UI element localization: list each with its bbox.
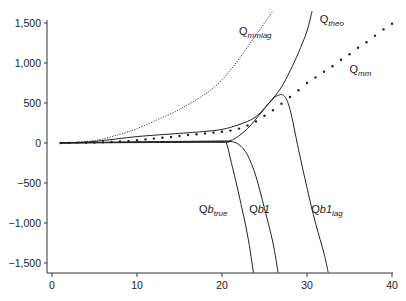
y-tick-label: −500 (17, 177, 41, 189)
line-chart: 1,5001,0005000−500−1,000−1,500 010203040… (0, 0, 406, 301)
data-point (238, 127, 240, 129)
data-point (212, 131, 214, 133)
y-tick-label: 1,500 (15, 17, 41, 29)
data-point (263, 115, 265, 117)
data-point (391, 23, 393, 25)
data-point (170, 136, 172, 138)
series-group (59, 11, 393, 273)
data-point (357, 47, 359, 49)
data-point (246, 124, 248, 126)
data-point (178, 135, 180, 137)
data-point (374, 35, 376, 37)
data-point (161, 137, 163, 139)
y-tick-label: −1,000 (9, 217, 42, 229)
y-tick-label: −1,500 (9, 257, 42, 269)
data-point (280, 103, 282, 105)
x-tick-label: 10 (131, 279, 143, 291)
series-q-theo (61, 11, 313, 143)
series-q-mm (59, 23, 393, 145)
x-ticks: 010203040 (49, 273, 398, 291)
data-point (153, 137, 155, 139)
data-point (229, 129, 231, 131)
series-qb-true (61, 142, 254, 273)
data-point (289, 96, 291, 98)
data-point (195, 133, 197, 135)
data-point (348, 53, 350, 55)
data-point (136, 139, 138, 141)
x-tick-label: 40 (386, 279, 398, 291)
series-labels: QmmlagQtheoQmmQbtrueQb1Qb1lag (199, 13, 372, 218)
y-tick-label: 500 (23, 97, 41, 109)
y-tick-label: 1,000 (15, 57, 41, 69)
y-ticks: 1,5001,0005000−500−1,000−1,500 (9, 17, 47, 269)
axes (47, 20, 393, 273)
data-point (314, 76, 316, 78)
y-tick-label: 0 (35, 137, 41, 149)
data-point (187, 134, 189, 136)
data-point (221, 131, 223, 133)
data-point (323, 71, 325, 73)
series-qb1-lag (61, 94, 329, 272)
data-point (306, 82, 308, 84)
x-tick-label: 30 (301, 279, 313, 291)
label-qb1: Qb1 (249, 203, 270, 215)
label-qb1-lag: Qb1lag (311, 203, 343, 218)
data-point (297, 89, 299, 91)
data-point (331, 65, 333, 67)
x-tick-label: 0 (49, 279, 55, 291)
series-qb1 (61, 141, 279, 272)
data-point (272, 109, 274, 111)
data-point (204, 132, 206, 134)
data-point (365, 41, 367, 43)
label-qb-true: Qbtrue (199, 203, 228, 218)
label-q-mm: Qmm (350, 63, 372, 78)
label-q-theo: Qtheo (320, 13, 345, 28)
data-point (382, 28, 384, 30)
data-point (340, 59, 342, 61)
x-tick-label: 20 (216, 279, 228, 291)
label-q-mmlag: Qmmlag (239, 25, 272, 40)
data-point (144, 138, 146, 140)
